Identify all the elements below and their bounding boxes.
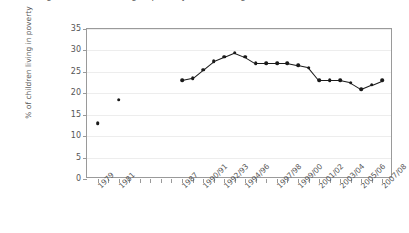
y-tick-label: 10: [57, 131, 81, 140]
y-tick-mark: [83, 136, 87, 137]
x-tick-mark: [108, 179, 109, 183]
x-tick-mark: [214, 179, 215, 183]
plot-area: 05101520253035: [86, 28, 392, 178]
y-tick-mark: [83, 115, 87, 116]
gridline: [87, 136, 391, 137]
data-point: [191, 76, 195, 80]
data-point: [307, 66, 311, 70]
y-tick-label: 35: [57, 24, 81, 33]
y-tick-label: 25: [57, 67, 81, 76]
data-point: [201, 68, 205, 72]
x-tick-mark: [319, 179, 320, 183]
gridline: [87, 29, 391, 30]
x-tick-mark: [182, 179, 183, 183]
data-point: [265, 61, 269, 65]
y-tick-label: 0: [57, 174, 81, 183]
x-tick-mark: [245, 179, 246, 183]
gridline: [87, 72, 391, 73]
x-tick-mark: [193, 179, 194, 183]
x-tick-mark: [372, 179, 373, 183]
y-axis-title: % of children living in poverty: [24, 0, 33, 138]
gridline: [87, 158, 391, 159]
y-tick-label: 20: [57, 88, 81, 97]
gridline: [87, 93, 391, 94]
data-point: [296, 64, 300, 68]
x-tick-mark: [277, 179, 278, 183]
y-tick-label: 5: [57, 153, 81, 162]
y-tick-label: 15: [57, 110, 81, 119]
gridline: [87, 115, 391, 116]
chart-title-cropped: Percentage of children living in poverty…: [0, 0, 406, 11]
data-point: [222, 55, 226, 59]
data-point: [96, 121, 100, 125]
data-point: [212, 59, 216, 63]
data-point: [233, 51, 237, 55]
x-tick-mark: [309, 179, 310, 183]
data-point: [328, 79, 332, 83]
x-tick-mark: [382, 179, 383, 183]
data-point: [349, 81, 353, 85]
x-tick-mark: [129, 179, 130, 183]
x-tick-mark: [203, 179, 204, 183]
x-tick-mark: [150, 179, 151, 183]
data-point: [275, 61, 279, 65]
data-point: [286, 61, 290, 65]
x-tick-mark: [287, 179, 288, 183]
x-tick-mark: [361, 179, 362, 183]
y-tick-label: 30: [57, 45, 81, 54]
y-tick-mark: [83, 93, 87, 94]
data-point: [338, 79, 342, 83]
y-tick-mark: [83, 72, 87, 73]
data-point: [243, 55, 247, 59]
x-tick-mark: [140, 179, 141, 183]
x-tick-mark: [98, 179, 99, 183]
x-tick-mark: [224, 179, 225, 183]
x-tick-mark: [235, 179, 236, 183]
data-point: [370, 83, 374, 87]
x-tick-mark: [171, 179, 172, 183]
y-tick-mark: [83, 29, 87, 30]
y-tick-mark: [83, 179, 87, 180]
data-point: [254, 61, 258, 65]
x-tick-mark: [330, 179, 331, 183]
y-axis-ticks: 05101520253035: [87, 29, 391, 177]
x-tick-mark: [256, 179, 257, 183]
gridline: [87, 50, 391, 51]
data-point: [117, 98, 121, 102]
y-tick-mark: [83, 50, 87, 51]
x-tick-mark: [119, 179, 120, 183]
x-tick-mark: [340, 179, 341, 183]
y-tick-mark: [83, 158, 87, 159]
x-tick-mark: [298, 179, 299, 183]
data-point: [180, 79, 184, 83]
x-tick-mark: [351, 179, 352, 183]
x-tick-mark: [161, 179, 162, 183]
chart-title-text: Percentage of children living in poverty…: [6, 0, 266, 1]
data-point: [317, 79, 321, 83]
data-point: [381, 79, 385, 83]
x-tick-mark: [266, 179, 267, 183]
data-point: [360, 87, 364, 91]
